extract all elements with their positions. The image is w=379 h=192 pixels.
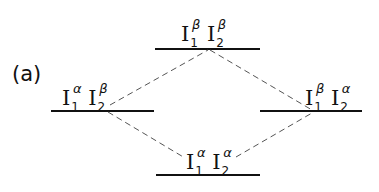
subscript: 2 xyxy=(340,100,348,114)
spin-symbol: I xyxy=(212,150,220,174)
spin-state: α xyxy=(197,145,206,160)
spin-symbol: I xyxy=(62,86,70,110)
subscript: 1 xyxy=(195,164,203,178)
spin-symbol: I xyxy=(186,150,194,174)
spin-state: β xyxy=(192,17,200,32)
subscript: 2 xyxy=(222,164,230,178)
subscript: 1 xyxy=(71,100,79,114)
spin-symbol: I xyxy=(305,86,313,110)
transition-bottom-right xyxy=(236,113,312,157)
spin-symbol: I xyxy=(331,86,339,110)
subscript: 1 xyxy=(314,100,322,114)
spin-state: α xyxy=(223,145,232,160)
spin-state: β xyxy=(99,81,107,96)
spin-state: β xyxy=(218,17,226,32)
transition-top-right xyxy=(210,50,312,110)
subscript: 1 xyxy=(190,36,198,50)
subscript: 2 xyxy=(216,36,224,50)
subscript: 2 xyxy=(98,100,106,114)
spin-symbol: I xyxy=(181,22,189,46)
spin-state: α xyxy=(342,81,351,96)
spin-symbol: I xyxy=(207,22,215,46)
panel-label: (a) xyxy=(12,62,41,86)
transition-left-bottom xyxy=(108,112,185,158)
level-top-label: I1β I2β xyxy=(181,18,226,49)
spin-symbol: I xyxy=(88,86,96,110)
level-left-label: I1α I2β xyxy=(62,82,107,113)
spin-state: α xyxy=(73,81,82,96)
transition-left-top xyxy=(110,50,208,105)
level-right-label: I1β I2α xyxy=(305,82,350,113)
level-bottom-label: I1α I2α xyxy=(186,146,232,177)
spin-state: β xyxy=(316,81,324,96)
